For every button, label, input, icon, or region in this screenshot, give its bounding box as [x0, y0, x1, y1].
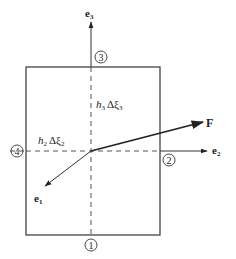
e2-label: e2 — [212, 144, 221, 158]
face-3-marker: 3 — [95, 51, 107, 63]
diagram-canvas: e3 e2 e1 F 3 2 4 1 h3Δξ3 h2Δξ2 — [0, 0, 236, 259]
svg-text:1: 1 — [89, 240, 94, 251]
e3-label: e3 — [85, 7, 94, 21]
face-1-marker: 1 — [85, 239, 97, 251]
svg-text:3: 3 — [99, 52, 104, 63]
svg-text:2: 2 — [167, 155, 172, 166]
svg-text:4: 4 — [15, 146, 20, 157]
face-2-marker: 2 — [163, 154, 175, 166]
e1-label: e1 — [34, 192, 43, 206]
h2-dxi2-label: h2Δξ2 — [38, 134, 65, 148]
force-label: F — [206, 116, 213, 130]
h3-dxi3-label: h3Δξ3 — [96, 98, 123, 112]
force-vector-arrow — [91, 122, 203, 151]
e1-axis-arrow — [45, 151, 91, 186]
